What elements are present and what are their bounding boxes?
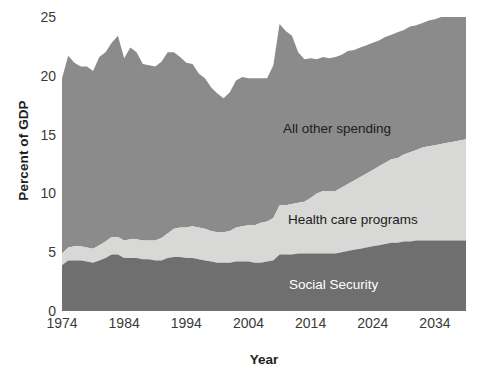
x-tick-2034: 2034: [400, 316, 470, 330]
x-tick-1974: 1974: [27, 316, 97, 330]
y-tick-15: 15: [26, 128, 56, 142]
plot-area: [62, 17, 466, 311]
annotation-health-care-programs: Health care programs: [288, 213, 418, 227]
x-axis-title: Year: [62, 352, 466, 367]
x-tick-2014: 2014: [276, 316, 346, 330]
y-tick-25: 25: [26, 10, 56, 24]
y-tick-20: 20: [26, 69, 56, 83]
x-tick-1984: 1984: [89, 316, 159, 330]
annotation-all-other-spending: All other spending: [283, 122, 391, 136]
y-tick-10: 10: [26, 186, 56, 200]
x-tick-2024: 2024: [338, 316, 408, 330]
x-tick-2004: 2004: [213, 316, 283, 330]
y-tick-5: 5: [26, 245, 56, 259]
area-chart: Percent of GDP 0510152025 19741984199420…: [0, 0, 482, 376]
annotation-social-security: Social Security: [289, 278, 378, 292]
stacked-area-svg: [62, 17, 466, 311]
x-tick-1994: 1994: [151, 316, 221, 330]
